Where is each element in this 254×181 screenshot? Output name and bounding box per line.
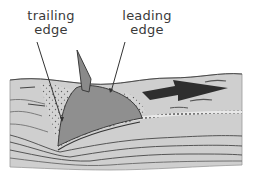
leading-edge-label-line2: edge bbox=[114, 23, 180, 37]
trailing-edge-label-line1: trailing bbox=[18, 9, 84, 23]
leading-edge-label: leading edge bbox=[114, 9, 180, 37]
trailing-edge-label: trailing edge bbox=[18, 9, 84, 37]
leading-edge-label-line1: leading bbox=[114, 9, 180, 23]
trailing-edge-label-line2: edge bbox=[18, 23, 84, 37]
diagram: trailing edge leading edge bbox=[0, 0, 254, 181]
